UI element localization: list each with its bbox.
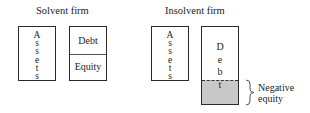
solvent-debt-label: Debt xyxy=(70,35,106,46)
solvent-firm-title: Solvent firm xyxy=(36,5,89,16)
debt-equity-divider xyxy=(70,54,106,55)
negative-equity-label: Negative equity xyxy=(258,82,294,104)
insolvent-debt-label: D e b t xyxy=(202,41,238,91)
solvent-equity-label: Equity xyxy=(70,61,106,72)
solvent-liabilities-box: Debt Equity xyxy=(69,26,107,81)
insolvent-assets-label: A s s e t s xyxy=(152,31,188,80)
insolvent-assets-box: A s s e t s xyxy=(151,26,189,81)
negative-equity-brace-icon xyxy=(244,79,256,106)
insolvent-firm-title: Insolvent firm xyxy=(165,5,225,16)
solvent-assets-box: A s s e t s xyxy=(18,26,56,81)
insolvent-debt-box: D e b t xyxy=(201,26,239,105)
solvent-assets-label: A s s e t s xyxy=(19,31,55,80)
